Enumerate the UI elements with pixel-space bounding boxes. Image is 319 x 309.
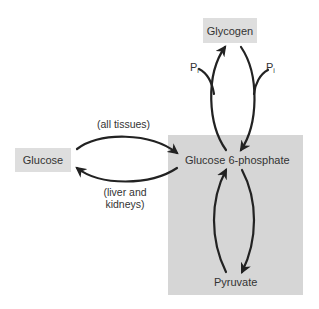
arrow-glycogen-to-g6p (241, 47, 255, 150)
arrows-layer (0, 0, 319, 309)
arrow-glucose-to-g6p (77, 137, 177, 153)
arrow-g6p-to-pyruvate (242, 170, 254, 272)
arrow-g6p-to-glycogen (211, 47, 226, 150)
arrow-pyruvate-to-g6p (214, 170, 226, 272)
arrow-g6p-to-glucose (77, 168, 177, 182)
pi-right-branch (254, 70, 268, 94)
